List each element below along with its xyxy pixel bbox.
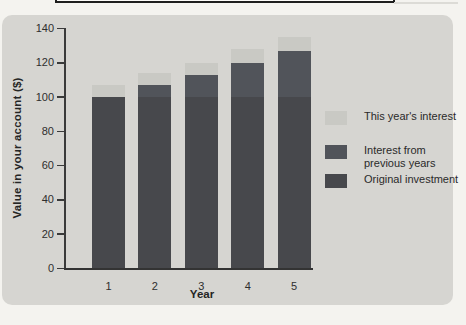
bar-segment-original-investment xyxy=(231,97,264,268)
bar-segment-original-investment xyxy=(185,97,218,268)
bar-segment-interest-from-previous-years xyxy=(278,51,311,97)
bar-segment-interest-from-previous-years xyxy=(231,63,264,97)
scan-artifact-line xyxy=(394,2,458,4)
x-tick-label: 5 xyxy=(282,280,306,292)
y-tick-label: 0 xyxy=(28,262,54,274)
cropped-box-above-figure xyxy=(55,0,395,3)
y-tick-label: 60 xyxy=(28,159,54,171)
bar-segment-interest-from-previous-years xyxy=(185,75,218,97)
bar-segment-this-year-s-interest xyxy=(92,85,125,97)
figure-panel xyxy=(2,15,453,305)
y-tick-label: 120 xyxy=(28,56,54,68)
scanned-figure: Value in your account ($) 02040608010012… xyxy=(0,0,466,325)
y-axis-line xyxy=(64,28,66,270)
bar-segment-this-year-s-interest xyxy=(278,37,311,51)
y-tick-label: 100 xyxy=(28,91,54,103)
bar-segment-original-investment xyxy=(92,97,125,268)
bar-segment-this-year-s-interest xyxy=(231,49,264,63)
y-tick-label: 20 xyxy=(28,228,54,240)
bar-segment-interest-from-previous-years xyxy=(138,85,171,97)
bar-segment-original-investment xyxy=(138,97,171,268)
y-tick-label: 140 xyxy=(28,22,54,34)
bar-segment-this-year-s-interest xyxy=(138,73,171,85)
y-tick-label: 80 xyxy=(28,125,54,137)
x-axis-title: Year xyxy=(160,288,244,300)
y-axis-title: Value in your account ($) xyxy=(11,77,23,218)
x-tick-label: 1 xyxy=(97,280,121,292)
bar-segment-this-year-s-interest xyxy=(185,63,218,75)
y-tick-label: 40 xyxy=(28,193,54,205)
bar-segment-original-investment xyxy=(278,97,311,268)
